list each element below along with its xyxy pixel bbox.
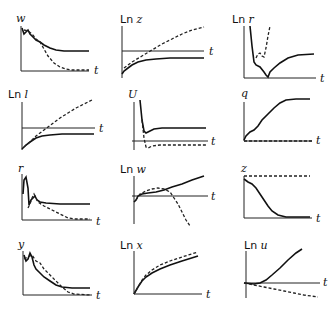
plot-lnr <box>224 0 336 80</box>
panel-r: r t <box>0 160 112 240</box>
t-axis-label: t <box>316 212 320 225</box>
plot-lnz <box>112 0 224 80</box>
t-axis-label: t <box>96 289 100 302</box>
plot-z <box>224 160 336 240</box>
t-axis-label: t <box>94 64 98 77</box>
t-axis-label: t <box>96 215 100 228</box>
panel-q: q t <box>224 80 336 160</box>
t-axis-label: t <box>99 122 103 135</box>
panel-lnl: Ln l t <box>0 80 112 160</box>
plot-lnu <box>224 235 336 315</box>
panel-lnw: Ln w t <box>112 160 224 240</box>
plot-q <box>224 80 336 160</box>
t-axis-label: t <box>211 190 215 203</box>
panel-lnu: Ln u t <box>224 235 336 315</box>
panel-U: U t <box>112 80 224 160</box>
t-axis-label: t <box>211 135 215 148</box>
plot-U <box>112 80 224 160</box>
panel-lnx: Ln x t <box>112 235 224 315</box>
t-axis-label: t <box>206 288 210 301</box>
plot-r <box>0 160 112 240</box>
plot-lnl <box>0 80 112 160</box>
panel-w: w t <box>0 0 112 80</box>
t-axis-label: t <box>323 276 327 289</box>
panel-z: z t <box>224 160 336 240</box>
plot-y <box>0 235 112 315</box>
t-axis-label: t <box>316 134 320 147</box>
t-axis-label: t <box>209 45 213 58</box>
panel-lnz: Ln z t <box>112 0 224 80</box>
panel-y: y t <box>0 235 112 315</box>
plot-lnx <box>112 235 224 315</box>
panel-lnr: Ln r t <box>224 0 336 80</box>
plot-lnw <box>112 160 224 240</box>
